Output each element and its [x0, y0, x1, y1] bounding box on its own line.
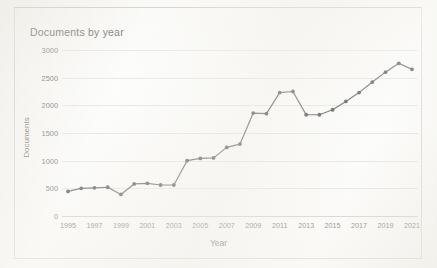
series-markers-documents	[66, 61, 414, 196]
data-point	[185, 159, 189, 163]
data-series-layer	[0, 0, 437, 268]
data-point	[212, 156, 216, 160]
data-point	[251, 111, 255, 115]
data-point	[225, 145, 229, 149]
data-point	[132, 182, 136, 186]
data-point	[238, 142, 242, 146]
series-line-documents	[68, 63, 412, 194]
data-point	[66, 189, 70, 193]
data-point	[357, 91, 361, 95]
data-point	[278, 91, 282, 95]
data-point	[172, 183, 176, 187]
data-point	[159, 183, 163, 187]
data-point	[370, 80, 374, 84]
data-point	[304, 113, 308, 117]
data-point	[119, 193, 123, 197]
data-point	[106, 185, 110, 189]
plot-area: 050010001500200025003000 199519971999200…	[0, 0, 437, 268]
data-point	[265, 112, 269, 116]
data-point	[331, 108, 335, 112]
data-point	[79, 186, 83, 190]
data-point	[317, 113, 321, 117]
data-point	[397, 61, 401, 65]
data-point	[93, 186, 97, 190]
data-point	[145, 181, 149, 185]
data-point	[410, 67, 414, 71]
data-point	[198, 157, 202, 161]
data-point	[344, 100, 348, 104]
data-point	[384, 70, 388, 74]
data-point	[291, 90, 295, 94]
